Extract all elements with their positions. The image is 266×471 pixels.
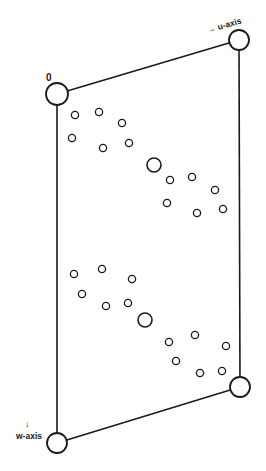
atom-7: [166, 176, 173, 183]
unit-cell-diagram: 0 → u-axis ↓ w-axis: [0, 0, 266, 471]
upper-atom-group: [68, 108, 226, 216]
origin-label: 0: [46, 72, 52, 83]
atom-5: [125, 139, 132, 146]
atom-12: [219, 205, 226, 212]
atom-1: [95, 108, 102, 115]
atom-10: [163, 199, 170, 206]
edge-right: [239, 40, 240, 387]
atom-u-corner: [229, 30, 249, 50]
atom-5: [124, 299, 131, 306]
atom-uw-corner: [230, 377, 250, 397]
atom-origin: [46, 83, 68, 105]
atom-6: [147, 158, 161, 172]
atom-3: [68, 134, 75, 141]
atom-12: [218, 367, 225, 374]
lower-atom-group: [70, 265, 229, 376]
atom-7: [165, 338, 172, 345]
atom-11: [193, 209, 200, 216]
edge-top-u-axis: [57, 40, 239, 94]
atom-11: [196, 369, 203, 376]
atom-2: [128, 275, 135, 282]
atom-0: [70, 270, 77, 277]
edge-bottom: [57, 387, 240, 443]
unit-cell-outline: [57, 40, 240, 443]
w-axis-arrow-icon: ↓: [25, 419, 30, 429]
atom-4: [99, 144, 106, 151]
corner-atoms: [46, 30, 250, 453]
atom-0: [71, 111, 78, 118]
w-axis-label: w-axis: [15, 431, 42, 441]
atom-8: [191, 331, 198, 338]
atom-6: [138, 313, 152, 327]
atom-9: [211, 186, 218, 193]
atom-8: [188, 173, 195, 180]
atom-2: [118, 119, 125, 126]
atom-1: [98, 265, 105, 272]
atom-w-corner: [47, 433, 67, 453]
atom-4: [102, 302, 109, 309]
atom-9: [222, 342, 229, 349]
atom-10: [172, 357, 179, 364]
atom-3: [78, 290, 85, 297]
